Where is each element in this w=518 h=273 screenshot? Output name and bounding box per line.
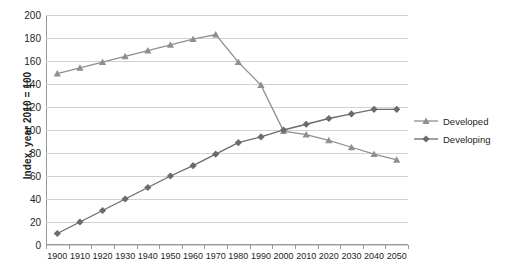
- x-tick-mark: [46, 245, 47, 249]
- x-tick-mark: [363, 245, 364, 249]
- data-point-developing: [370, 106, 377, 113]
- x-tick-label: 2010: [296, 251, 316, 261]
- legend-marker-triangle-icon: [414, 115, 438, 127]
- y-tick-label: 140: [24, 79, 41, 90]
- x-tick-label: 1930: [115, 251, 135, 261]
- series-line-developing: [57, 109, 396, 233]
- x-tick-label: 2020: [319, 251, 339, 261]
- x-tick-mark: [408, 245, 409, 249]
- y-tick-label: 20: [30, 217, 41, 228]
- series-layer: [46, 15, 408, 245]
- data-point-developing: [54, 230, 61, 237]
- x-tick-label: 1940: [138, 251, 158, 261]
- chart-legend: Developed Developing: [414, 112, 491, 148]
- data-point-developing: [325, 115, 332, 122]
- x-tick-label: 1950: [160, 251, 180, 261]
- data-point-developing: [393, 106, 400, 113]
- x-tick-label: 1900: [47, 251, 67, 261]
- y-tick-label: 40: [30, 194, 41, 205]
- x-tick-mark: [159, 245, 160, 249]
- x-tick-mark: [182, 245, 183, 249]
- x-tick-label: 2000: [274, 251, 294, 261]
- x-tick-mark: [69, 245, 70, 249]
- y-tick-label: 100: [24, 125, 41, 136]
- x-tick-label: 1910: [70, 251, 90, 261]
- y-tick-label: 60: [30, 171, 41, 182]
- x-tick-mark: [227, 245, 228, 249]
- data-point-developing: [167, 172, 174, 179]
- x-tick-mark: [318, 245, 319, 249]
- x-tick-mark: [295, 245, 296, 249]
- x-tick-label: 2030: [341, 251, 361, 261]
- x-tick-mark: [272, 245, 273, 249]
- x-tick-label: 1990: [251, 251, 271, 261]
- data-point-developing: [144, 184, 151, 191]
- data-point-developing: [212, 151, 219, 158]
- data-point-developing: [348, 110, 355, 117]
- x-tick-mark: [340, 245, 341, 249]
- x-tick-mark: [204, 245, 205, 249]
- x-tick-mark: [114, 245, 115, 249]
- legend-item-developed: Developed: [414, 112, 491, 130]
- y-tick-label: 120: [24, 102, 41, 113]
- data-point-developing: [257, 133, 264, 140]
- data-point-developing: [122, 195, 129, 202]
- data-point-developing: [303, 121, 310, 128]
- x-tick-label: 2050: [387, 251, 407, 261]
- y-tick-label: 0: [35, 240, 41, 251]
- y-tick-label: 160: [24, 56, 41, 67]
- x-tick-mark: [137, 245, 138, 249]
- plot-area: 020406080100120140160180200 190019101920…: [46, 15, 408, 245]
- data-point-developing: [189, 162, 196, 169]
- y-tick-label: 180: [24, 33, 41, 44]
- legend-label-developing: Developing: [443, 134, 491, 145]
- y-tick-label: 200: [24, 10, 41, 21]
- data-point-developing: [99, 207, 106, 214]
- chart-container: Index, year 2010 = 100 02040608010012014…: [0, 0, 518, 273]
- x-tick-label: 1980: [228, 251, 248, 261]
- legend-label-developed: Developed: [443, 116, 488, 127]
- x-tick-mark: [250, 245, 251, 249]
- x-tick-label: 1920: [93, 251, 113, 261]
- x-tick-mark: [385, 245, 386, 249]
- y-tick-label: 80: [30, 148, 41, 159]
- legend-marker-diamond-icon: [414, 133, 438, 145]
- data-point-developing: [76, 218, 83, 225]
- data-point-developed: [212, 31, 219, 38]
- x-tick-label: 1960: [183, 251, 203, 261]
- x-tick-mark: [91, 245, 92, 249]
- data-point-developing: [235, 139, 242, 146]
- x-tick-label: 1970: [206, 251, 226, 261]
- legend-item-developing: Developing: [414, 130, 491, 148]
- series-line-developed: [57, 35, 396, 160]
- x-tick-label: 2040: [364, 251, 384, 261]
